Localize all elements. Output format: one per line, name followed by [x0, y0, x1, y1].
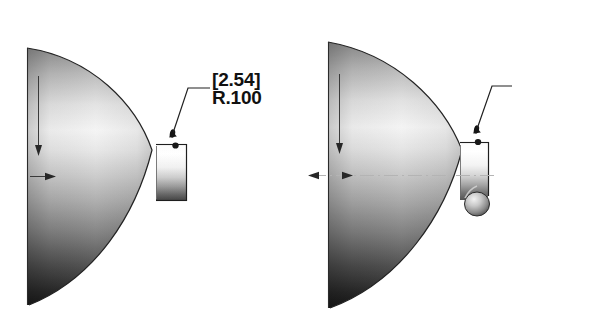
boss-cylinder [460, 142, 489, 200]
dimension-radius-value: R.100 [212, 88, 262, 107]
right-view-graphic [300, 0, 601, 318]
arrow-left-icon [308, 172, 319, 179]
left-view-graphic [0, 0, 300, 318]
figure-right-view: [2.54] R.100 [300, 0, 601, 318]
figure-left-view: [2.54] R.100 [0, 0, 300, 318]
drawing-canvas: [2.54] R.100 [0, 0, 601, 318]
leader-line [473, 86, 512, 134]
dimension-callout-left: [2.54] R.100 [212, 70, 262, 108]
leader-line [169, 88, 210, 138]
boss-cylinder [156, 144, 187, 201]
